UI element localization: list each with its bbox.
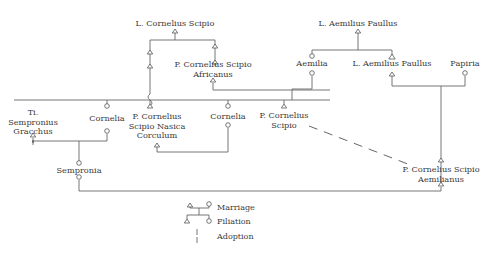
legend-marriage-label: Marriage bbox=[217, 203, 255, 212]
person-l-cornelius-scipio: L. Cornelius Scipio bbox=[136, 19, 215, 29]
female-symbol bbox=[226, 123, 231, 128]
male-symbol bbox=[212, 44, 217, 48]
male-symbol bbox=[355, 29, 360, 33]
legend-adoption-label: Adoption bbox=[217, 232, 254, 241]
gender-symbols bbox=[30, 29, 467, 186]
person-cornelia-elder: Cornelia bbox=[89, 114, 124, 124]
person-cornelia-younger: Cornelia bbox=[210, 112, 245, 122]
male-symbol bbox=[147, 64, 152, 68]
africanus-children bbox=[14, 100, 330, 104]
person-sempronia: Sempronia bbox=[56, 166, 101, 176]
person-l-aemilius-paullus-elder: L. Aemilius Paullus bbox=[318, 19, 397, 29]
female-symbol bbox=[463, 71, 468, 76]
male-symbol bbox=[147, 50, 152, 54]
male-symbol bbox=[389, 72, 394, 76]
person-p-cornelius-scipio: P. Cornelius Scipio bbox=[260, 111, 309, 130]
male-symbol bbox=[281, 104, 286, 108]
legend-filiation-label: Filiation bbox=[217, 217, 251, 226]
person-papiria: Papiria bbox=[450, 59, 479, 69]
adoption-line bbox=[309, 126, 413, 166]
female-symbol bbox=[105, 104, 110, 109]
person-scipio-nasica-corculum: P. Cornelius Scipio Nasica Corculum bbox=[129, 112, 186, 141]
female-symbol bbox=[226, 104, 231, 109]
person-scipio-aemilianus: P. Cornelius Scipio Aemilianus bbox=[402, 165, 479, 184]
person-l-aemilius-paullus-younger: L. Aemilius Paullus bbox=[352, 59, 431, 69]
person-aemilia: Aemilia bbox=[296, 59, 327, 69]
family-tree-diagram: L. Cornelius Scipio L. Aemilius Paullus … bbox=[0, 0, 491, 259]
male-symbol bbox=[438, 158, 443, 162]
female-symbol bbox=[105, 129, 110, 134]
person-ti-sempronius-gracchus: Ti. Sempronius Gracchus bbox=[8, 108, 58, 137]
male-symbol bbox=[172, 29, 177, 33]
person-scipio-africanus: P. Cornelius Scipio Africanus bbox=[174, 60, 251, 79]
male-symbol bbox=[154, 143, 159, 147]
female-symbol bbox=[310, 71, 315, 76]
legend-symbols bbox=[184, 202, 211, 243]
